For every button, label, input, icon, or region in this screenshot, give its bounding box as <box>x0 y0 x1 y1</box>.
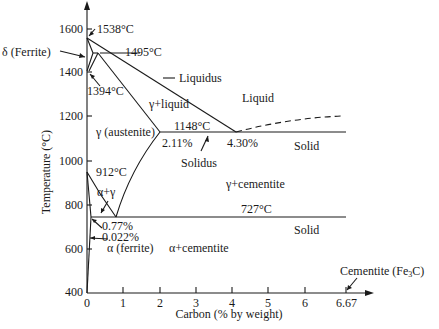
x-tick-6-67: 6.67 <box>336 297 357 309</box>
label-alpha-ferrite: α (ferrite) <box>107 242 154 254</box>
label-alpha-gamma: α+γ <box>97 186 115 198</box>
label-liquidus: Liquidus <box>179 72 222 84</box>
label-delta-ferrite: δ (Ferrite) <box>2 46 51 58</box>
x-axis-title: Carbon (% by weight) <box>176 307 283 322</box>
x-tick-0: 0 <box>84 297 90 309</box>
y-tick-1000: 1000 <box>59 155 83 167</box>
label-1538c: 1538°C <box>97 23 134 35</box>
label-1148c: 1148°C <box>174 120 210 132</box>
label-gamma-austenite: γ (austenite) <box>96 126 155 138</box>
label-4-30-percent: 4.30% <box>227 137 258 149</box>
x-axis-arrow-icon <box>365 290 374 296</box>
label-liquid: Liquid <box>242 92 274 104</box>
label-gamma-liquid: γ+liquid <box>149 98 189 110</box>
y-axis-title: Temperature (°C) <box>39 130 54 214</box>
y-tick-1200: 1200 <box>59 110 83 122</box>
y-axis-arrow-icon <box>84 1 90 10</box>
label-1394c: 1394°C <box>87 85 124 97</box>
y-tick-1400: 1400 <box>59 66 83 78</box>
label-cementite-fe3c: Cementite (Fe3C) <box>340 265 424 279</box>
label-solid-lower: Solid <box>294 224 319 236</box>
label-727c: 727°C <box>241 203 272 215</box>
x-tick-2: 2 <box>157 297 163 309</box>
label-1495c: 1495°C <box>125 46 162 58</box>
x-tick-6: 6 <box>302 297 308 309</box>
label-912c: 912°C <box>96 166 127 178</box>
label-alpha-cementite: α+cementite <box>169 242 229 254</box>
y-tick-600: 600 <box>65 243 83 255</box>
label-2-11-percent: 2.11% <box>162 137 193 149</box>
liquidus-dashed-line <box>236 116 342 132</box>
x-tick-1: 1 <box>120 297 126 309</box>
label-gamma-cementite: γ+cementite <box>226 178 285 190</box>
y-tick-400: 400 <box>65 286 83 298</box>
label-solid-upper: Solid <box>294 140 319 152</box>
y-tick-800: 800 <box>65 199 83 211</box>
label-solidus: Solidus <box>181 157 217 169</box>
y-tick-1600: 1600 <box>59 23 83 35</box>
